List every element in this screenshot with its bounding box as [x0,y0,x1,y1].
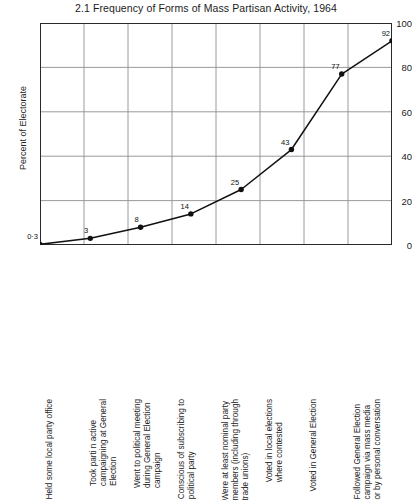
data-point-label: 25 [231,178,240,187]
data-point-label: 8 [134,215,139,224]
plot-area: 0·3381425437792 [40,23,392,245]
data-point-marker [188,211,193,216]
data-point-label: 92 [382,29,391,38]
data-point-label: 14 [181,202,190,211]
data-point-marker [238,187,243,192]
data-point-marker [289,147,294,152]
data-point-label: 43 [281,138,290,147]
x-category-label: Voted in General Election [309,399,319,491]
data-point-label: 0·3 [27,232,39,241]
x-category-label: Held some local party office [45,399,55,499]
x-category-label: Took parti n active campaigning at Gener… [89,399,120,486]
data-point-label: 3 [84,226,89,235]
x-category-label: Were at least nominal party members (inc… [221,399,252,500]
x-category-label: Conscious of subscribing to political pa… [177,399,197,499]
data-point-marker [339,71,344,76]
data-point-label: 77 [331,62,340,71]
gridlines [40,23,392,245]
data-point-marker [40,242,43,245]
data-point-marker [138,225,143,230]
data-point-marker [88,236,93,241]
plot-svg [40,23,392,245]
x-category-label: Followed General Election campaign via m… [353,399,384,500]
x-category-label: Went to political meeting during General… [133,399,164,488]
x-axis-category-labels: Held some local party officeTook parti n… [40,249,392,401]
x-category-label: Voted in local elections where contested [265,399,285,482]
